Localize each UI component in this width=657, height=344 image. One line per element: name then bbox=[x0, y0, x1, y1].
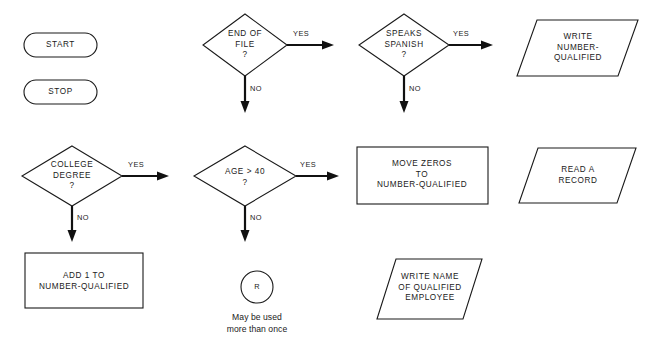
flowchart-vector-layer bbox=[0, 0, 657, 344]
write-number-qualified-parallelogram-shape[interactable] bbox=[517, 20, 638, 76]
add-one-process-shape[interactable] bbox=[25, 253, 143, 308]
end-of-file-yes-arrowhead bbox=[322, 41, 334, 50]
flowchart-canvas: START STOP END OF FILE ? YES NO SPEAKS S… bbox=[0, 0, 657, 344]
speaks-spanish-no-arrowhead bbox=[400, 101, 409, 113]
college-degree-yes-arrowhead bbox=[157, 172, 169, 181]
stop-terminator-shape[interactable] bbox=[24, 80, 97, 104]
end-of-file-no-arrowhead bbox=[241, 101, 250, 113]
age-over-40-diamond-shape[interactable] bbox=[194, 146, 296, 206]
college-degree-diamond-shape[interactable] bbox=[22, 146, 122, 206]
move-zeros-process-shape[interactable] bbox=[357, 147, 488, 204]
end-of-file-diamond-shape[interactable] bbox=[203, 14, 287, 76]
speaks-spanish-diamond-shape[interactable] bbox=[359, 14, 449, 76]
connector-r-circle-shape[interactable] bbox=[241, 271, 273, 303]
start-terminator-shape[interactable] bbox=[24, 33, 97, 57]
write-name-parallelogram-shape[interactable] bbox=[377, 259, 482, 319]
read-a-record-parallelogram-shape[interactable] bbox=[519, 148, 636, 203]
college-degree-no-arrowhead bbox=[68, 230, 77, 242]
age-over-40-yes-arrowhead bbox=[327, 172, 339, 181]
speaks-spanish-yes-arrowhead bbox=[481, 41, 493, 50]
age-over-40-no-arrowhead bbox=[241, 230, 250, 242]
